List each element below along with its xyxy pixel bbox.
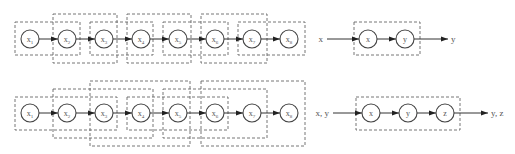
node-x1: x1: [21, 104, 39, 122]
top-input-label: x: [319, 34, 324, 44]
node-label: y: [403, 35, 407, 44]
sliding-window-diagram: x1x2x3x4x5x6x7x8 x y xy x1x2x3x4x5x6x7x8…: [0, 0, 515, 154]
node-x2: x2: [58, 30, 76, 48]
bottom-input-label: x, y: [316, 108, 330, 118]
node-x8: x8: [280, 30, 298, 48]
bottom-panel-chain: x1x2x3x4x5x6x7x8: [15, 81, 305, 146]
node-label: z: [443, 109, 447, 118]
node-x7: x7: [243, 30, 261, 48]
node-x5: x5: [169, 104, 187, 122]
node-x7: x7: [243, 104, 261, 122]
block-node-z: z: [436, 104, 454, 122]
block-node-y: y: [399, 104, 417, 122]
node-x1: x1: [21, 30, 39, 48]
node-label: x: [369, 109, 373, 118]
node-x6: x6: [206, 30, 224, 48]
top-output-label: y: [451, 34, 456, 44]
node-x3: x3: [95, 30, 113, 48]
node-x2: x2: [58, 104, 76, 122]
node-x5: x5: [169, 30, 187, 48]
node-x8: x8: [280, 104, 298, 122]
node-label: x: [366, 35, 370, 44]
top-block-model: x y xy: [319, 22, 457, 55]
bottom-block-model: x, y y, z xyz: [316, 97, 504, 130]
node-x6: x6: [206, 104, 224, 122]
node-label: y: [406, 109, 410, 118]
top-panel-chain: x1x2x3x4x5x6x7x8: [15, 14, 305, 63]
bottom-output-label: y, z: [491, 108, 503, 118]
node-x4: x4: [132, 30, 150, 48]
node-x4: x4: [132, 104, 150, 122]
block-node-x: x: [362, 104, 380, 122]
node-x3: x3: [95, 104, 113, 122]
block-node-y: y: [396, 30, 414, 48]
block-node-x: x: [359, 30, 377, 48]
